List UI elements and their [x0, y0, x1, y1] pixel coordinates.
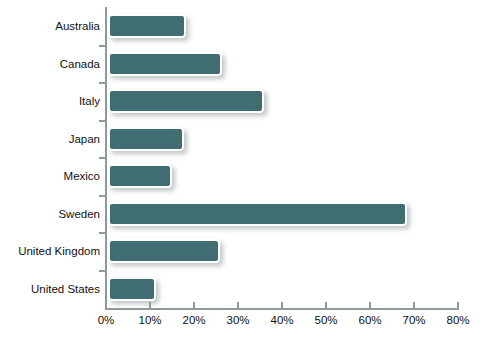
x-axis-tick	[369, 302, 371, 310]
x-axis-tick-label: 80%	[428, 314, 482, 326]
x-axis-tick	[325, 302, 327, 310]
y-axis-tick	[99, 45, 107, 47]
x-axis-tick	[413, 302, 415, 310]
x-axis-tick	[237, 302, 239, 310]
x-axis-tick	[281, 302, 283, 310]
x-axis-tick	[457, 302, 459, 310]
y-axis-tick	[99, 232, 107, 234]
x-axis-tick	[193, 302, 195, 310]
bar-chart: AustraliaCanadaItalyJapanMexicoSwedenUni…	[0, 0, 482, 339]
x-axis-tick	[105, 302, 107, 310]
y-axis-tick	[99, 195, 107, 197]
x-axis-ticks: 0%10%20%30%40%50%60%70%80%	[0, 0, 482, 339]
y-axis-tick	[99, 157, 107, 159]
y-axis-tick	[99, 270, 107, 272]
x-axis-tick	[149, 302, 151, 310]
y-axis-tick	[99, 120, 107, 122]
y-axis-tick	[99, 82, 107, 84]
